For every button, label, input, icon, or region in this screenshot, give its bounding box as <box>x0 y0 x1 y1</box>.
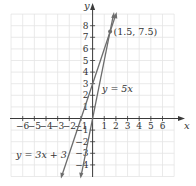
arrow-icon <box>79 173 83 179</box>
svg-text:1: 1 <box>101 121 107 131</box>
svg-text:−2: −2 <box>75 137 88 147</box>
svg-text:5: 5 <box>83 56 89 66</box>
line-label-y-equals-5x: y = 5x <box>101 83 133 94</box>
svg-text:7: 7 <box>83 32 89 42</box>
line-label-y-equals-3x-plus-3: y = 3x + 3 <box>15 149 67 160</box>
intersection-label: (1.5, 7.5) <box>114 26 158 37</box>
svg-text:4: 4 <box>83 67 89 77</box>
svg-text:8: 8 <box>83 21 89 31</box>
coordinate-plane: −6 −5 −4 −3 −2 −1 1 2 3 4 5 6 8 7 6 5 4 … <box>0 0 196 186</box>
svg-text:2: 2 <box>113 121 119 131</box>
x-axis-label: x <box>184 120 190 131</box>
intersection-point <box>108 30 112 34</box>
svg-text:6: 6 <box>83 44 89 54</box>
svg-text:3: 3 <box>125 121 131 131</box>
svg-text:3: 3 <box>83 79 89 89</box>
svg-text:4: 4 <box>136 121 142 131</box>
y-axis-label: y <box>83 0 90 11</box>
arrow-icon <box>60 172 64 178</box>
svg-text:6: 6 <box>160 121 166 131</box>
y-axis-arrow-icon <box>90 3 95 10</box>
svg-text:5: 5 <box>148 121 154 131</box>
